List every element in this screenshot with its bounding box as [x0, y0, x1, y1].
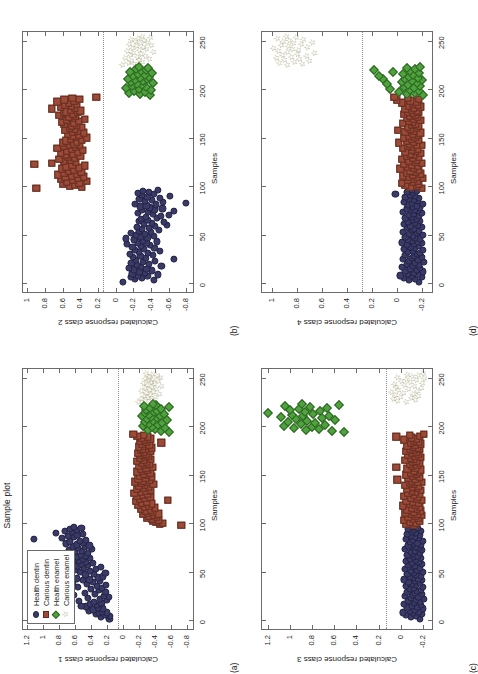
- y-tick: [139, 625, 140, 629]
- legend-item: Carious dentin: [41, 555, 51, 619]
- y-tick-label: -0.2: [416, 298, 425, 311]
- x-tick-label: 150: [437, 470, 446, 483]
- y-tick-label: 0.2: [92, 298, 101, 308]
- y-tick-label: -0.4: [150, 635, 159, 648]
- y-tick: [45, 288, 46, 292]
- y-tick: [63, 288, 64, 292]
- data-point-star: ☆: [394, 374, 401, 381]
- y-tick: [297, 288, 298, 292]
- x-tick: [262, 186, 266, 187]
- y-tick: [155, 369, 156, 373]
- data-point-diamond: [334, 400, 344, 410]
- y-tick: [169, 32, 170, 36]
- data-point-square: [164, 496, 171, 503]
- y-tick: [98, 288, 99, 292]
- y-tick: [401, 625, 402, 629]
- x-tick: [262, 572, 266, 573]
- y-tick: [27, 625, 28, 629]
- threshold-line: [103, 32, 104, 292]
- x-tick-label: 0: [437, 283, 446, 287]
- chart-panel-a: Sample plot(a)☆☆☆☆☆☆☆☆☆☆☆☆☆☆☆☆☆☆☆☆☆☆☆☆☆☆…: [0, 337, 239, 674]
- y-tick-label: 0.2: [373, 635, 382, 645]
- chart-title: Sample plot: [2, 337, 12, 674]
- x-tick: [189, 235, 193, 236]
- plot-area: ☆☆☆☆☆☆☆☆☆☆☆☆☆☆☆☆☆☆☆☆☆☆☆☆☆☆☆☆☆☆: [262, 369, 432, 629]
- y-tick-label: 0.2: [366, 298, 375, 308]
- y-tick: [45, 32, 46, 36]
- data-point-star: ☆: [282, 33, 289, 40]
- x-tick-label: 250: [198, 36, 207, 49]
- data-point-square: [393, 433, 400, 440]
- x-tick-label: 50: [437, 570, 446, 578]
- y-tick-label: 0.8: [306, 635, 315, 645]
- x-tick-label: 50: [437, 233, 446, 241]
- y-tick: [98, 32, 99, 36]
- data-point-star: ☆: [292, 34, 299, 41]
- y-tick: [272, 288, 273, 292]
- y-tick: [401, 369, 402, 373]
- y-tick-label: 0.6: [316, 298, 325, 308]
- data-point-square: [31, 160, 38, 167]
- y-tick: [397, 288, 398, 292]
- x-tick-label: 150: [198, 133, 207, 146]
- y-tick: [133, 288, 134, 292]
- y-tick: [187, 369, 188, 373]
- x-tick: [262, 523, 266, 524]
- data-point-square: [81, 116, 88, 123]
- legend-symbol-glyph: [33, 611, 40, 618]
- data-point-star: ☆: [139, 33, 146, 40]
- y-tick-label: 0: [110, 298, 119, 302]
- x-tick: [428, 235, 432, 236]
- legend-symbol-glyph: [51, 610, 60, 619]
- data-point-square: [394, 126, 401, 133]
- y-tick: [347, 288, 348, 292]
- y-tick: [186, 32, 187, 36]
- y-tick-label: 1: [266, 298, 275, 302]
- threshold-line: [362, 32, 363, 292]
- y-tick: [186, 288, 187, 292]
- x-tick: [428, 41, 432, 42]
- y-tick: [107, 625, 108, 629]
- y-tick-label: -0.8: [182, 635, 191, 648]
- x-tick: [189, 378, 193, 379]
- y-tick: [347, 32, 348, 36]
- y-tick: [80, 288, 81, 292]
- y-tick: [75, 625, 76, 629]
- x-tick-label: 100: [198, 519, 207, 532]
- x-tick-label: 100: [437, 182, 446, 195]
- legend-marker-square-icon: [43, 610, 50, 619]
- y-tick-label: 0.4: [351, 635, 360, 645]
- data-point-square: [130, 430, 137, 437]
- x-tick: [189, 620, 193, 621]
- data-point-circle: [154, 187, 161, 194]
- data-point-square: [406, 431, 413, 438]
- x-tick: [189, 138, 193, 139]
- x-tick: [189, 426, 193, 427]
- x-tick: [262, 41, 266, 42]
- y-tick: [322, 288, 323, 292]
- plot-area: ☆☆☆☆☆☆☆☆☆☆☆☆☆☆☆☆☆☆☆☆☆☆☆☆☆☆☆☆☆☆: [262, 32, 432, 292]
- legend-symbol-glyph: [43, 611, 50, 618]
- x-tick-label: 50: [198, 233, 207, 241]
- y-tick-label: 0.8: [54, 635, 63, 645]
- x-tick: [23, 186, 27, 187]
- data-point-circle: [167, 192, 174, 199]
- legend-item: Health enamel: [51, 555, 61, 619]
- y-tick: [379, 625, 380, 629]
- x-tick: [428, 475, 432, 476]
- y-tick-label: 0.6: [329, 635, 338, 645]
- y-axis-title: Calculated response class 3: [261, 655, 433, 664]
- y-tick: [155, 625, 156, 629]
- chart-panel-c: (c)☆☆☆☆☆☆☆☆☆☆☆☆☆☆☆☆☆☆☆☆☆☆☆☆☆☆☆☆☆☆0501001…: [239, 337, 478, 674]
- x-tick: [23, 138, 27, 139]
- x-tick-label: 50: [198, 570, 207, 578]
- threshold-line: [386, 369, 387, 629]
- y-tick: [423, 625, 424, 629]
- y-tick-label: 1: [284, 635, 293, 639]
- y-tick: [27, 288, 28, 292]
- legend-symbol-glyph: ☆: [62, 611, 70, 618]
- x-tick: [262, 283, 266, 284]
- y-tick: [139, 369, 140, 373]
- legend-label: Carious dentin: [42, 559, 51, 606]
- y-tick: [59, 625, 60, 629]
